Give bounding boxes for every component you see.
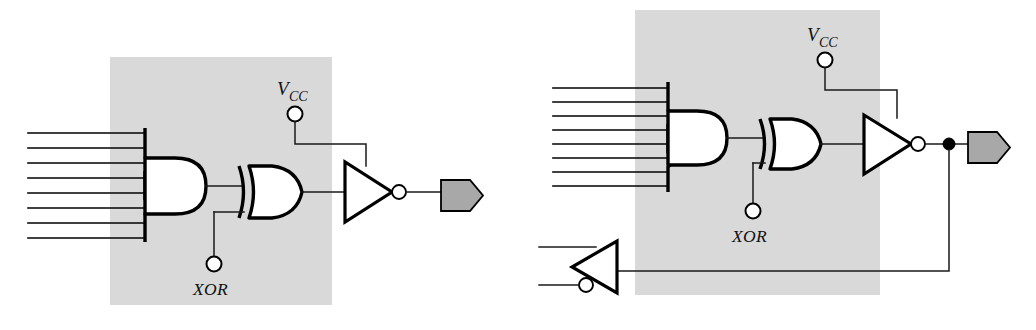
feedback-buffer [539,241,617,293]
xor-pin-terminal[interactable] [746,204,761,219]
output-junction-dot [943,138,955,150]
xor-pin-terminal[interactable] [207,257,222,272]
xor-gate-body [249,166,302,218]
xor-label: XOR [192,279,228,299]
vcc-pin-terminal[interactable] [818,53,833,68]
figure-root: V CC XOR [0,0,1036,330]
vcc-sublabel: CC [289,89,308,104]
output-pad[interactable] [968,132,1010,163]
output-inverter-bubble [392,185,406,199]
output-pad[interactable] [441,180,483,211]
vcc-pin-terminal[interactable] [288,107,303,122]
and-gate-body [145,158,206,214]
xor-gate-body [770,119,821,169]
output-inverter [345,162,441,222]
xor-label: XOR [731,226,767,246]
output-inverter-body [864,115,911,174]
vcc-sublabel: CC [819,35,838,50]
output-inverter-body [345,162,392,222]
output-inverter-bubble [911,137,925,151]
left-macrocell: V CC XOR [28,57,483,305]
right-macrocell: V CC XOR [539,10,1010,295]
circuit-diagram-canvas: V CC XOR [0,0,1036,330]
and-gate-body [668,111,727,165]
feedback-buffer-enable-bubble [579,278,593,292]
